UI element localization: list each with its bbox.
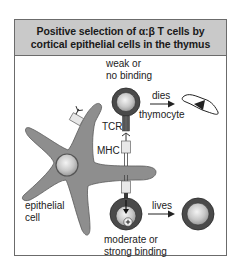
mhc-molecule-weak <box>122 133 131 166</box>
label-mhc: MHC <box>97 145 120 157</box>
epithelial-line-2: cell <box>25 212 64 224</box>
moderate-line-1: moderate or <box>104 234 167 246</box>
epithelial-nucleus <box>56 154 78 176</box>
moderate-line-2: strong binding <box>104 246 167 258</box>
label-epithelial-cell: epithelial cell <box>25 200 64 224</box>
label-lives: lives <box>152 200 172 212</box>
label-moderate-binding: moderate or strong binding <box>104 234 167 258</box>
epithelial-line-1: epithelial <box>25 200 64 212</box>
label-thymocyte: thymocyte <box>139 109 185 121</box>
thymocyte-weak-nucleus <box>117 93 136 112</box>
weak-line-2: no binding <box>106 70 152 82</box>
label-dies: dies <box>152 90 170 102</box>
label-tcr: TCR <box>102 121 123 133</box>
label-weak-binding: weak or no binding <box>106 58 152 82</box>
weak-line-1: weak or <box>106 58 152 70</box>
